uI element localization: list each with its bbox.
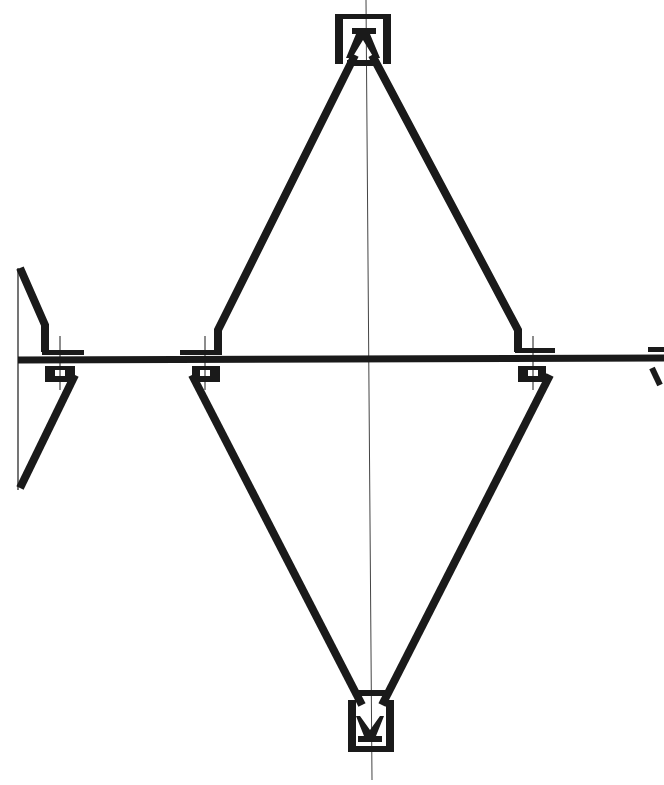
- structural-diagram: [0, 0, 664, 785]
- far-right-joint-plate: [648, 347, 664, 352]
- far-right-lower-member: [652, 368, 660, 385]
- upper-right-member: [372, 55, 518, 352]
- far-left-lower-member: [20, 375, 75, 488]
- horizontal-chord: [18, 358, 664, 360]
- top-node-connector: [335, 14, 391, 66]
- upper-left-member: [218, 55, 355, 352]
- far-left-upper-member: [20, 268, 45, 352]
- lower-left-member: [192, 375, 362, 705]
- center-axis-line: [366, 0, 372, 780]
- lower-right-member: [382, 375, 550, 705]
- left-joint-plate: [180, 350, 222, 382]
